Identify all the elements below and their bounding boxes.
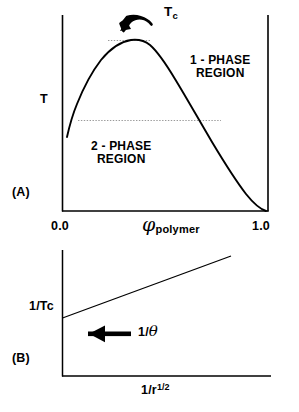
theta-label-prefix: 1/ [138, 325, 149, 339]
theta-intercept-label: 1/θ [138, 323, 158, 340]
panel-b-x-base: 1/r [141, 383, 157, 397]
panel-b-x-exponent: 1/2 [157, 382, 170, 392]
panel-b-tag: (B) [12, 351, 30, 365]
panel-b-group [62, 250, 271, 377]
panel-b-fit-line [63, 256, 232, 318]
critical-temperature-label: Tc [164, 4, 178, 21]
phi-symbol: φ [142, 213, 156, 235]
panel-a-x-axis-label: φpolymer [142, 214, 200, 236]
two-phase-region-label: 2 - PHASE REGION [91, 140, 151, 167]
left-arrow-icon [88, 326, 131, 343]
panel-a-xtick-max: 1.0 [252, 219, 270, 233]
one-phase-line1: 1 - PHASE [190, 53, 250, 67]
curved-arrow-icon [120, 16, 152, 31]
panel-a-group [62, 15, 269, 212]
two-phase-line1: 2 - PHASE [91, 139, 151, 153]
tc-subscript: c [172, 10, 177, 21]
panel-a-tag: (A) [12, 185, 30, 199]
figure-vector-layer [0, 0, 299, 412]
phi-subscript: polymer [156, 223, 200, 235]
panel-a-xtick-min: 0.0 [51, 219, 69, 233]
figure-root: (A) T Tc 1 - PHASE REGION 2 - PHASE REGI… [0, 0, 299, 412]
one-phase-line2: REGION [196, 66, 245, 80]
panel-b-x-axis-label: 1/r1/2 [141, 382, 169, 397]
theta-symbol: θ [149, 322, 158, 340]
two-phase-line2: REGION [97, 152, 146, 166]
panel-b-y-axis-label: 1/Tc [29, 299, 54, 313]
panel-a-y-axis-label: T [40, 92, 48, 106]
one-phase-region-label: 1 - PHASE REGION [190, 54, 250, 81]
